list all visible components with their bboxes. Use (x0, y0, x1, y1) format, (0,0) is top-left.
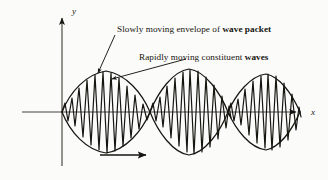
leader-line-envelope (98, 35, 115, 73)
axes-group (22, 18, 296, 166)
annotation-constituent-text: Rapidly moving constituent (139, 52, 245, 62)
annotation-envelope-bold: wave packet (222, 24, 271, 34)
x-axis-label: x (311, 107, 315, 117)
y-axis-label: y (72, 6, 76, 16)
annotation-constituent-bold: waves (245, 52, 269, 62)
annotation-label-envelope: Slowly moving envelope of wave packet (117, 24, 271, 34)
annotation-envelope-text: Slowly moving envelope of (117, 24, 222, 34)
annotation-label-constituent: Rapidly moving constituent waves (139, 52, 268, 62)
wave-packet-figure: Slowly moving envelope of wave packet Ra… (0, 0, 328, 180)
